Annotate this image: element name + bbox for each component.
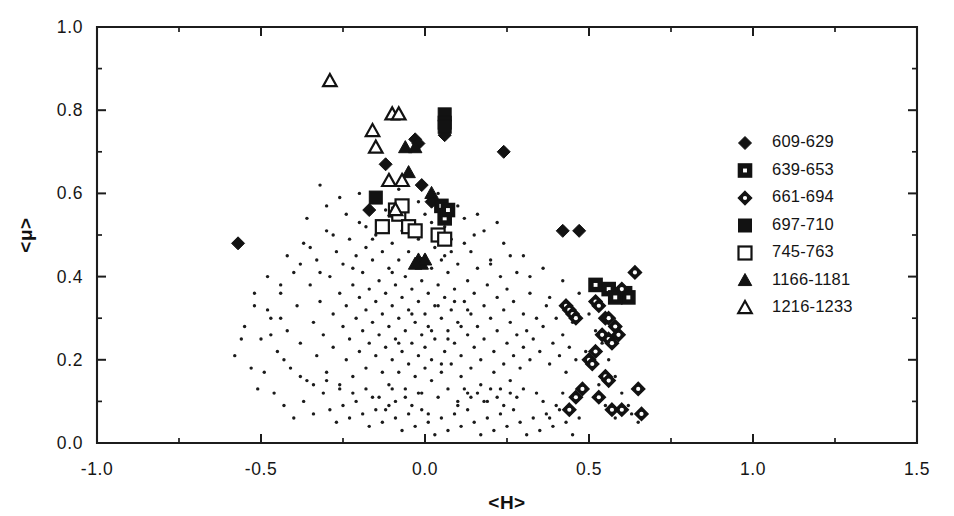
data-point-tiny-dot xyxy=(443,254,446,257)
data-point-tiny-dot xyxy=(486,400,489,403)
data-point-tiny-dot xyxy=(391,242,394,245)
data-point-tiny-dot xyxy=(266,308,269,311)
data-point-tiny-dot xyxy=(341,325,344,328)
data-point-tiny-dot xyxy=(400,429,403,432)
data-point-tiny-dot xyxy=(469,250,472,253)
data-point-tiny-dot xyxy=(384,346,387,349)
data-point-tiny-dot xyxy=(535,391,538,394)
data-point-tiny-dot xyxy=(446,337,449,340)
data-point-tiny-dot xyxy=(456,321,459,324)
data-point-square-with-dot xyxy=(739,164,752,177)
data-point-tiny-dot xyxy=(279,292,282,295)
data-point-diamond-with-dot xyxy=(628,266,641,279)
data-point-tiny-dot xyxy=(292,416,295,419)
data-point-tiny-dot xyxy=(440,362,443,365)
data-point-tiny-dot xyxy=(450,362,453,365)
legend-label: 609-629 xyxy=(772,132,834,150)
data-point-tiny-dot xyxy=(486,416,489,419)
data-point-tiny-dot xyxy=(243,325,246,328)
data-point-tiny-dot xyxy=(440,416,443,419)
y-tick-label: 0.2 xyxy=(57,350,83,370)
data-point-tiny-dot xyxy=(282,404,285,407)
data-point-tiny-dot xyxy=(263,371,266,374)
data-point-tiny-dot xyxy=(512,354,515,357)
legend-item-1216-1233[interactable]: 1216-1233 xyxy=(738,297,852,315)
data-point-tiny-dot xyxy=(476,267,479,270)
data-point-tiny-dot xyxy=(305,379,308,382)
data-point-tiny-dot xyxy=(482,229,485,232)
data-point-tiny-dot xyxy=(459,425,462,428)
data-point-tiny-dot xyxy=(407,362,410,365)
data-point-tiny-dot xyxy=(512,300,515,303)
data-point-tiny-dot xyxy=(515,396,518,399)
data-point-square-with-dot xyxy=(589,278,602,291)
data-point-tiny-dot xyxy=(335,421,338,424)
data-point-tiny-dot xyxy=(253,292,256,295)
data-point-tiny-dot xyxy=(358,192,361,195)
legend-item-697-710[interactable]: 697-710 xyxy=(739,215,834,233)
legend-item-639-653[interactable]: 639-653 xyxy=(739,160,834,178)
data-point-tiny-dot xyxy=(427,412,430,415)
data-point-tiny-dot xyxy=(528,358,531,361)
data-point-tiny-dot xyxy=(315,354,318,357)
legend-label: 1216-1233 xyxy=(772,297,853,315)
data-point-tiny-dot xyxy=(466,408,469,411)
data-point-tiny-dot xyxy=(351,391,354,394)
legend-item-609-629[interactable]: 609-629 xyxy=(739,132,834,150)
data-point-open-triangle xyxy=(369,141,383,153)
x-tick-label: 0.0 xyxy=(412,459,438,479)
data-point-tiny-dot xyxy=(269,317,272,320)
y-tick-label: 0.6 xyxy=(57,183,83,203)
data-point-tiny-dot xyxy=(584,350,587,353)
data-point-tiny-dot xyxy=(400,296,403,299)
data-point-tiny-dot xyxy=(309,246,312,249)
data-point-tiny-dot xyxy=(574,358,577,361)
data-point-tiny-dot xyxy=(473,346,476,349)
data-point-tiny-dot xyxy=(266,275,269,278)
chart-figure: 0.00.20.40.60.81.0-1.0-0.50.00.51.01.5<H… xyxy=(0,0,954,516)
data-point-tiny-dot xyxy=(384,208,387,211)
data-point-diamond-with-dot xyxy=(563,403,576,416)
data-point-tiny-dot xyxy=(420,391,423,394)
data-point-filled-diamond xyxy=(573,224,586,237)
data-point-tiny-dot xyxy=(351,375,354,378)
data-point-tiny-dot xyxy=(440,371,443,374)
series-marker-layer xyxy=(232,74,648,420)
data-point-tiny-dot xyxy=(423,213,426,216)
data-point-tiny-dot xyxy=(489,262,492,265)
data-point-filled-diamond xyxy=(497,145,510,158)
data-point-tiny-dot xyxy=(256,387,259,390)
data-point-tiny-dot xyxy=(614,375,617,378)
data-point-tiny-dot xyxy=(331,312,334,315)
legend-label: 639-653 xyxy=(772,160,834,178)
data-point-tiny-dot xyxy=(413,375,416,378)
data-point-filled-diamond xyxy=(379,158,392,171)
data-point-tiny-dot xyxy=(522,346,525,349)
legend-item-745-763[interactable]: 745-763 xyxy=(739,242,834,260)
data-point-tiny-dot xyxy=(312,321,315,324)
data-point-tiny-dot xyxy=(384,408,387,411)
legend-item-661-694[interactable]: 661-694 xyxy=(739,187,834,205)
data-point-tiny-dot xyxy=(328,408,331,411)
y-tick-label: 0.0 xyxy=(57,433,83,453)
legend-item-1166-1181[interactable]: 1166-1181 xyxy=(738,270,850,288)
data-point-tiny-dot xyxy=(397,341,400,344)
data-point-tiny-dot xyxy=(502,362,505,365)
legend-label: 661-694 xyxy=(772,187,834,205)
data-point-tiny-dot xyxy=(328,275,331,278)
data-point-tiny-dot xyxy=(341,404,344,407)
x-tick-label: 1.0 xyxy=(740,459,766,479)
data-point-square-with-dot xyxy=(441,204,454,217)
data-point-tiny-dot xyxy=(368,341,371,344)
data-point-tiny-dot xyxy=(417,354,420,357)
data-point-tiny-dot xyxy=(371,237,374,240)
data-point-filled-square xyxy=(739,219,752,232)
series-1216-1233 xyxy=(323,74,409,215)
data-point-tiny-dot xyxy=(594,329,597,332)
data-point-filled-diamond xyxy=(415,179,428,192)
data-point-tiny-dot xyxy=(502,308,505,311)
data-point-tiny-dot xyxy=(364,308,367,311)
data-point-tiny-dot xyxy=(522,387,525,390)
data-point-tiny-dot xyxy=(318,271,321,274)
data-point-tiny-dot xyxy=(374,354,377,357)
